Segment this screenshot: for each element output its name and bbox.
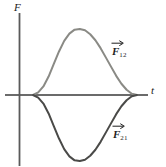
force-vs-time-figure: F t F12 F21 [0,0,166,167]
vector-f12-body: F12 [112,46,127,59]
x-axis-label: t [151,85,154,96]
vector-label-f21: F21 [113,129,128,142]
y-axis-label: F [14,2,21,13]
vector-f12-subscript: 12 [119,51,126,59]
plot-canvas [0,0,166,167]
vector-f21-body: F21 [113,129,128,142]
vector-f21-subscript: 21 [120,134,127,142]
vector-label-f12: F12 [112,46,127,59]
curve-f12 [33,29,137,95]
curve-f21 [33,95,137,161]
